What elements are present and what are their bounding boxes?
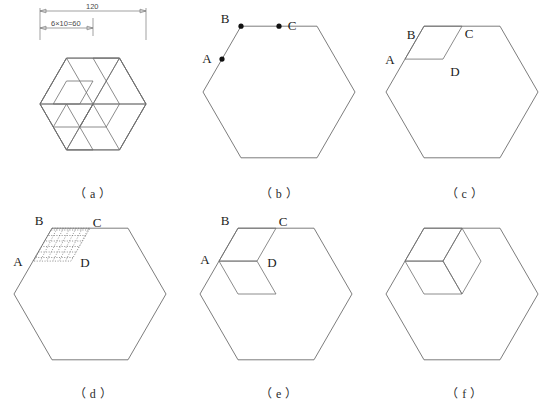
point-label-b: B [221,213,230,228]
panel-caption-d: （ d ） [0,384,186,402]
hatched-cell-right-f [443,228,481,294]
point-label-c: C [465,26,474,41]
hatched-cell-bottom-f [405,261,462,294]
point-label-b: B [221,11,230,26]
point-label-d: D [450,64,459,79]
tiling-cells-a [40,58,146,150]
point-label-a: A [13,254,23,269]
point-c-marker [276,24,281,29]
point-label-b: B [407,27,416,42]
panel-b: B C A （ b ） [186,0,372,200]
panel-c: B C A D （ c ） [372,0,557,200]
panel-a: 120 6×10=60 [0,0,186,200]
point-label-c: C [288,18,297,33]
panel-caption-a: （ a ） [0,184,186,202]
panel-caption-b: （ b ） [186,184,372,202]
panel-caption-f: （ f ） [372,384,557,402]
hexagon-outline-d [14,228,166,360]
point-a-marker [219,57,224,62]
point-label-d: D [267,255,276,270]
panel-caption-e: （ e ） [186,384,372,402]
point-label-c: C [279,214,288,229]
figure-canvas: 120 6×10=60 [0,0,557,404]
point-label-d: D [80,255,89,270]
point-label-a: A [202,51,212,66]
point-label-a: A [200,252,210,267]
dimension-label-half-width: 6×10=60 [51,19,81,28]
hexagon-outline-b [203,26,355,158]
point-label-b: B [35,213,44,228]
hatched-cell-left-f [405,228,462,261]
point-b-marker [238,24,243,29]
point-label-a: A [385,52,395,67]
dimension-label-overall-width: 120 [86,2,99,11]
panel-f: （ f ） [372,202,557,404]
panel-d: B C A D （ d ） [0,202,186,404]
point-label-c: C [93,215,102,230]
panel-e: B C A D （ e ） [186,202,372,404]
hexagon-outline-c [386,26,538,158]
panel-caption-c: （ c ） [372,184,557,202]
